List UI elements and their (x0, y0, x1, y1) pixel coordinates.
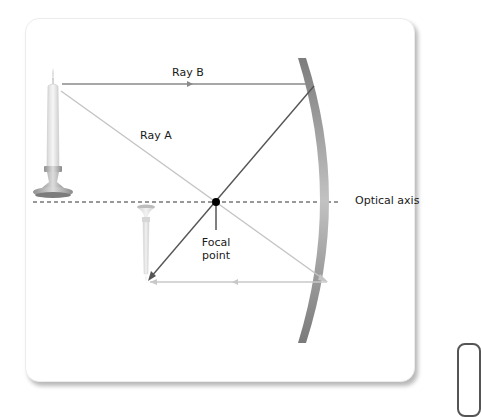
ray-b-reflected (151, 86, 314, 277)
ray-a-reflected-arrow-mid (232, 279, 238, 285)
ray-a-label: Ray A (140, 129, 172, 142)
image-candle-inverted (137, 205, 155, 283)
focal-point-label-line2: point (202, 249, 231, 262)
concave-mirror (298, 58, 329, 343)
focal-point-label-line1: Focal (202, 236, 231, 249)
ray-b-label: Ray B (172, 66, 204, 79)
optical-axis-label: Optical axis (355, 194, 420, 207)
ray-b-arrow-mid (187, 81, 193, 87)
ray-a-reflected-arrow-end (150, 279, 157, 285)
object-candle (33, 68, 73, 198)
